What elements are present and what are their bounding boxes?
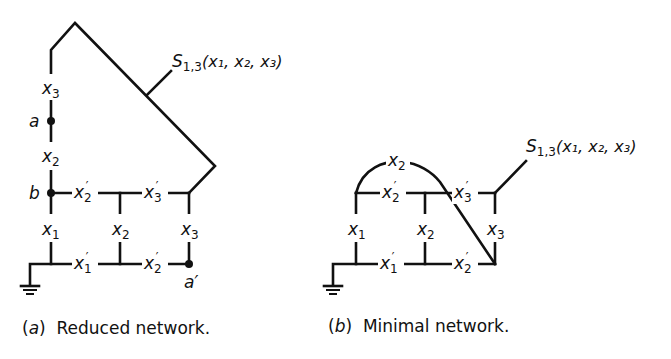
output-label-left: S1,3(x₁, x₂, x₃) (172, 51, 282, 74)
node-label-a: a (29, 111, 39, 131)
minimal-network: x2 x2′ x3′ x1 x2 x3 x1′ x2′ S1,3(x₁, x₂,… (324, 136, 636, 294)
node-label-b: b (29, 183, 40, 203)
ground-icon (21, 286, 39, 294)
relay-network-diagram: x3 a x2 b x1 x2′ x3′ x2 x3 x1′ x2′ a′ S1… (0, 0, 671, 359)
node-a-prime (185, 260, 193, 268)
caption-text: Minimal network. (363, 316, 509, 336)
reduced-network: x3 a x2 b x1 x2′ x3′ x2 x3 x1′ x2′ a′ S1… (21, 23, 282, 294)
node-label-a-prime: a′ (184, 272, 198, 292)
node-b (47, 189, 55, 197)
caption-a: (a) Reduced network. (22, 318, 210, 338)
caption-b: (b) Minimal network. (328, 316, 509, 336)
caption-letter: a (29, 318, 39, 338)
wire-output-stub (495, 161, 526, 193)
wire-output-stub (147, 71, 171, 95)
ground-icon (324, 286, 342, 294)
caption-letter: b (335, 316, 346, 336)
output-label-right: S1,3(x₁, x₂, x₃) (526, 136, 636, 159)
caption-text: Reduced network. (57, 318, 211, 338)
node-a (47, 117, 55, 125)
